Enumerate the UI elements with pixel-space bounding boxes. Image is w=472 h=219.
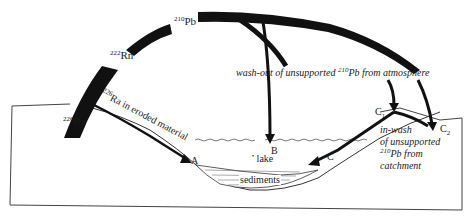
arrowhead-C1 — [389, 103, 399, 112]
label-washout: wash-out of unsupported 210Pb from atmos… — [236, 68, 429, 78]
label-rn222: 222Rn — [110, 50, 133, 61]
label-lake: • lake — [252, 153, 273, 164]
point-A: A — [191, 156, 198, 166]
arrow-C1-shaft — [388, 80, 394, 105]
diagram-graphics — [0, 0, 472, 219]
label-inwash: in-wash of unsupported 210Pb from catchm… — [380, 124, 440, 172]
label-sediments: sediments — [239, 175, 281, 185]
lead-210-cycle-diagram: 210Pb 222Rn 226Ra 226Ra in eroded materi… — [0, 0, 472, 219]
point-C1: C1 — [375, 107, 385, 120]
pb-atmos-band — [198, 12, 420, 74]
lake-surface — [195, 139, 367, 141]
point-C: C — [327, 152, 334, 162]
label-ra226: 226Ra — [63, 116, 86, 127]
point-C2: C2 — [440, 124, 450, 137]
arrowhead-C — [308, 156, 320, 166]
label-pb210: 210Pb — [174, 16, 196, 27]
